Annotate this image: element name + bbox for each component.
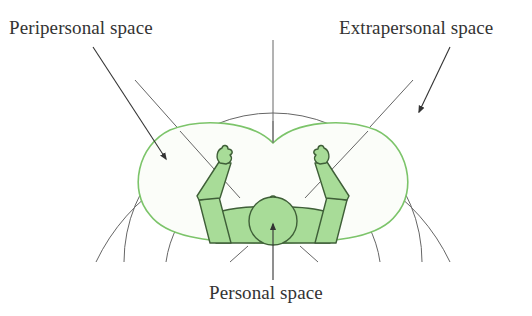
extrapersonal-space-label: Extrapersonal space — [339, 17, 493, 39]
ray-lower-right — [300, 246, 318, 262]
peripersonal-space-label: Peripersonal space — [9, 17, 153, 39]
extrapersonal-arrow — [419, 47, 450, 112]
personal-space-label: Personal space — [209, 282, 323, 304]
spatial-diagram: Peripersonal space Extrapersonal space P… — [0, 0, 532, 316]
diagram-canvas — [0, 0, 532, 316]
ray-lower-left — [230, 246, 248, 262]
